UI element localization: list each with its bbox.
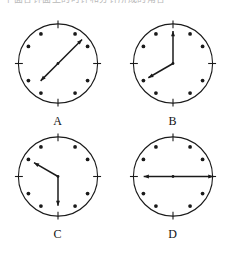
hour-dot-8 — [141, 79, 145, 83]
hour-dot-8 — [26, 79, 30, 83]
hour-dot-7 — [39, 204, 43, 208]
hour-dot-2 — [85, 158, 89, 162]
hour-dot-10 — [26, 158, 30, 162]
hour-dot-1 — [188, 32, 192, 36]
cropped-header-text: 下面各钟面上的时针和分针所成的角各是多少度 — [4, 0, 164, 7]
clock-center-pin — [171, 62, 174, 65]
hour-dot-7 — [154, 91, 158, 95]
hour-dot-7 — [154, 204, 158, 208]
hour-dot-1 — [188, 145, 192, 149]
clock-label-c: C — [53, 228, 61, 240]
hour-dot-4 — [200, 192, 204, 196]
hour-dot-10 — [141, 158, 145, 162]
cropped-header-text-line: 下面各钟面上的时针和分针所成的角各是多少度 — [4, 0, 164, 4]
hour-dot-2 — [200, 158, 204, 162]
clock-center-pin — [56, 62, 59, 65]
clock-d-hour-hand-arrowhead — [143, 175, 148, 179]
clock-cell-d: D — [115, 127, 230, 240]
hour-dot-10 — [141, 45, 145, 49]
hour-dot-2 — [200, 45, 204, 49]
clock-label-a: A — [53, 115, 62, 127]
hour-dot-11 — [39, 145, 43, 149]
clock-b-minute-hand-arrowhead — [171, 31, 175, 36]
clock-grid: A B C D — [0, 14, 230, 255]
hour-dot-11 — [154, 145, 158, 149]
hour-dot-11 — [154, 32, 158, 36]
hour-dot-5 — [188, 204, 192, 208]
clock-label-b: B — [168, 115, 176, 127]
clock-cell-a: A — [0, 14, 115, 127]
clock-face-d — [123, 127, 223, 226]
clock-figure: 下面各钟面上的时针和分针所成的角各是多少度 A B C D — [0, 0, 230, 255]
hour-dot-5 — [188, 91, 192, 95]
hour-dot-5 — [73, 204, 77, 208]
hour-dot-8 — [26, 192, 30, 196]
hour-dot-4 — [85, 79, 89, 83]
clock-cell-c: C — [0, 127, 115, 240]
hour-dot-10 — [26, 45, 30, 49]
clock-center-pin — [171, 175, 174, 178]
hour-dot-4 — [85, 192, 89, 196]
hour-dot-1 — [73, 145, 77, 149]
clock-label-d: D — [168, 228, 177, 240]
clock-cell-b: B — [115, 14, 230, 127]
clock-center-pin — [56, 175, 59, 178]
hour-dot-1 — [73, 32, 77, 36]
hour-dot-2 — [85, 45, 89, 49]
hour-dot-11 — [39, 32, 43, 36]
clock-face-c — [8, 127, 108, 226]
hour-dot-7 — [39, 91, 43, 95]
clock-c-hour-hand-arrowhead — [56, 201, 60, 206]
clock-face-a — [8, 14, 108, 113]
clock-face-b — [123, 14, 223, 113]
hour-dot-5 — [73, 91, 77, 95]
clock-b-hour-hand-arrowhead — [148, 73, 153, 77]
clock-c-minute-hand-arrowhead — [33, 163, 38, 167]
hour-dot-4 — [200, 79, 204, 83]
hour-dot-8 — [141, 192, 145, 196]
